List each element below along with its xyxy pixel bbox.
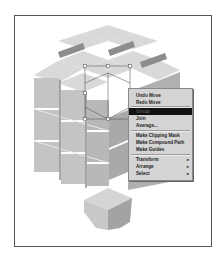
menu-item-label: Arrange (136, 164, 154, 169)
submenu-arrow-icon: ▸ (187, 163, 189, 170)
menu-item-undo-move[interactable]: Undo Move (129, 92, 192, 99)
menu-item-label: Transform (136, 157, 158, 162)
submenu-arrow-icon: ▸ (187, 170, 189, 177)
loose-cube[interactable] (84, 188, 132, 230)
menu-item-select[interactable]: Select▸ (129, 170, 192, 177)
handle-bottom-center (107, 118, 110, 121)
menu-item-redo-move[interactable]: Redo Move (129, 99, 192, 106)
handle-mid-left (84, 92, 87, 95)
context-menu: Undo Move Redo Move Group Join Average..… (128, 88, 193, 181)
menu-item-arrange[interactable]: Arrange▸ (129, 163, 192, 170)
handle-top-right (129, 65, 132, 68)
handle-top-center (107, 65, 110, 68)
menu-item-make-compound-path[interactable]: Make Compound Path (129, 139, 192, 146)
menu-item-transform[interactable]: Transform▸ (129, 156, 192, 163)
menu-item-average[interactable]: Average... (129, 122, 192, 129)
menu-item-group[interactable]: Group (129, 108, 192, 115)
menu-item-label: Select (136, 171, 150, 176)
menu-item-make-clipping-mask[interactable]: Make Clipping Mask (129, 132, 192, 139)
handle-top-left (84, 65, 87, 68)
submenu-arrow-icon: ▸ (187, 156, 189, 163)
menu-item-join[interactable]: Join (129, 115, 192, 122)
handle-bottom-left (84, 118, 87, 121)
menu-item-make-guides[interactable]: Make Guides (129, 146, 192, 153)
